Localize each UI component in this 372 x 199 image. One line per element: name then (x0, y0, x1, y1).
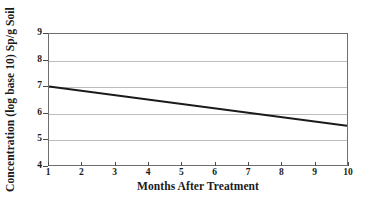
y-tick-label-8: 8 (30, 55, 42, 65)
x-tick-label-9: 9 (305, 168, 325, 178)
x-tick-label-3: 3 (105, 168, 125, 178)
x-tick-label-2: 2 (71, 168, 91, 178)
x-tick-label-1: 1 (38, 168, 58, 178)
x-tick-mark-10 (348, 162, 349, 166)
chart-figure: Concentration (log base 10) Sp/g Soil 98… (0, 0, 372, 199)
y-axis-label: Concentration (log base 10) Sp/g Soil (0, 0, 20, 199)
x-tick-label-8: 8 (271, 168, 291, 178)
x-tick-label-5: 5 (171, 168, 191, 178)
x-tick-mark-1 (48, 162, 49, 166)
series-layer (49, 34, 347, 165)
y-tick-mark-7 (43, 86, 48, 87)
x-tick-mark-5 (181, 162, 182, 166)
x-tick-mark-3 (115, 162, 116, 166)
x-tick-label-7: 7 (238, 168, 258, 178)
x-tick-label-10: 10 (338, 168, 358, 178)
x-tick-mark-8 (281, 162, 282, 166)
x-tick-mark-7 (248, 162, 249, 166)
plot-area (48, 33, 348, 166)
x-tick-label-4: 4 (138, 168, 158, 178)
x-tick-label-6: 6 (205, 168, 225, 178)
x-axis-label: Months After Treatment (48, 180, 348, 192)
y-tick-mark-6 (43, 113, 48, 114)
y-tick-mark-8 (43, 60, 48, 61)
x-tick-mark-6 (215, 162, 216, 166)
y-tick-mark-5 (43, 139, 48, 140)
x-tick-mark-2 (81, 162, 82, 166)
x-tick-mark-9 (315, 162, 316, 166)
y-tick-mark-9 (43, 33, 48, 34)
y-tick-label-9: 9 (30, 28, 42, 38)
y-tick-label-7: 7 (30, 81, 42, 91)
y-tick-label-6: 6 (30, 108, 42, 118)
series-line-concentration (49, 86, 347, 125)
x-tick-mark-4 (148, 162, 149, 166)
y-tick-label-5: 5 (30, 134, 42, 144)
y-axis-label-text: Concentration (log base 10) Sp/g Soil (4, 7, 16, 192)
